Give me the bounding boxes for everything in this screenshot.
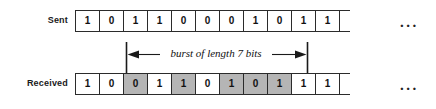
bit-cell: 1 (291, 10, 315, 32)
bit-cell: 0 (195, 73, 219, 95)
bit-cell: 1 (291, 73, 315, 95)
bit-cell: 1 (147, 10, 171, 32)
bit-cell: 1 (267, 73, 291, 95)
burst-error-figure: Sent 1 0 1 1 0 0 0 1 0 1 1 ... burst of … (0, 0, 436, 109)
bit-cell-open-end (339, 73, 350, 95)
received-row-label: Received (0, 78, 68, 88)
sent-row-label: Sent (0, 15, 68, 25)
bit-cell: 0 (171, 10, 195, 32)
bit-cell: 1 (171, 73, 195, 95)
bit-cell: 1 (123, 10, 147, 32)
burst-left-arrow-head-icon (128, 51, 140, 59)
bit-cell: 0 (195, 10, 219, 32)
bit-cell: 1 (75, 73, 99, 95)
bit-cell: 1 (147, 73, 171, 95)
bit-cell: 1 (75, 10, 99, 32)
bit-cell-open-end (339, 10, 350, 32)
bit-cell: 0 (219, 10, 243, 32)
bit-cell: 1 (243, 10, 267, 32)
bit-cell: 0 (99, 73, 123, 95)
received-bit-strip: 1 0 0 1 1 0 1 0 1 1 1 (75, 73, 350, 95)
sent-bit-strip: 1 0 1 1 0 0 0 1 0 1 1 (75, 10, 350, 32)
received-continuation-ellipsis: ... (400, 78, 419, 93)
bit-cell: 1 (315, 73, 339, 95)
burst-length-label: burst of length 7 bits (160, 48, 272, 59)
bit-cell: 1 (315, 10, 339, 32)
sent-continuation-ellipsis: ... (400, 15, 419, 30)
burst-right-arrow-head-icon (295, 51, 307, 59)
bit-cell: 1 (219, 73, 243, 95)
bit-cell: 0 (123, 73, 147, 95)
bit-cell: 0 (243, 73, 267, 95)
bit-cell: 0 (99, 10, 123, 32)
bit-cell: 0 (267, 10, 291, 32)
